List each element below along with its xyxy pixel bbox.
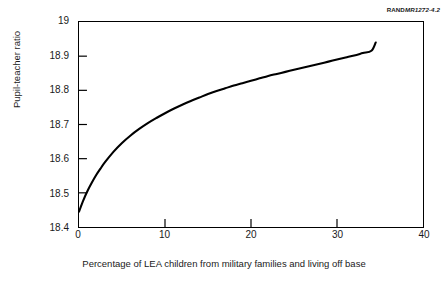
rand-brand-label: RAND bbox=[387, 6, 405, 13]
y-axis-tick-label: 18.6 bbox=[50, 154, 69, 164]
y-axis-tick-labels: 18.418.518.618.718.818.919 bbox=[0, 21, 74, 228]
plot-svg bbox=[79, 22, 423, 227]
y-axis-tick-label: 19 bbox=[58, 16, 69, 26]
y-axis-tick-label: 18.4 bbox=[50, 223, 69, 233]
document-number-label: MR1272-4.2 bbox=[405, 6, 440, 13]
x-axis-tick-label: 10 bbox=[159, 230, 170, 240]
x-axis-tick-label: 40 bbox=[418, 230, 429, 240]
x-axis-tick-marks bbox=[165, 219, 337, 227]
source-identifier: RANDMR1272-4.2 bbox=[387, 7, 440, 13]
plot-area bbox=[78, 21, 424, 228]
x-axis-tick-label: 20 bbox=[245, 230, 256, 240]
x-axis-tick-label: 0 bbox=[75, 230, 81, 240]
y-axis-tick-label: 18.8 bbox=[50, 85, 69, 95]
y-axis-tick-marks bbox=[79, 56, 87, 193]
x-axis-tick-labels: 010203040 bbox=[78, 230, 424, 244]
y-axis-tick-label: 18.7 bbox=[50, 120, 69, 130]
y-axis-tick-label: 18.5 bbox=[50, 189, 69, 199]
x-axis-tick-label: 30 bbox=[332, 230, 343, 240]
data-line-pupil-teacher-ratio bbox=[79, 43, 376, 212]
y-axis-tick-label: 18.9 bbox=[50, 51, 69, 61]
x-axis-title: Percentage of LEA children from military… bbox=[0, 258, 448, 269]
figure-container: RANDMR1272-4.2 Pupil-teacher ratio 18.41… bbox=[0, 0, 448, 283]
